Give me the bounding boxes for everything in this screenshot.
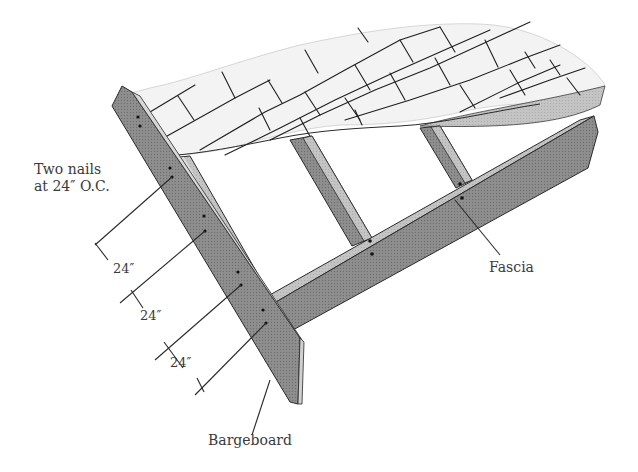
roof-framing-diagram: Two nails at 24″ O.C. 24″ 24″ 24″ Bargeb…	[0, 0, 638, 472]
nail	[368, 239, 372, 243]
nail	[202, 214, 205, 217]
nails-annotation: Two nails at 24″ O.C.	[34, 161, 110, 195]
shingles	[124, 22, 605, 156]
bargeboard-label: Bargeboard	[208, 432, 292, 449]
nails-annotation-line1: Two nails	[34, 161, 110, 178]
fascia-label: Fascia	[489, 259, 534, 276]
spacing-label-2: 24″	[140, 307, 161, 324]
nail	[138, 124, 141, 127]
spacing-label-1: 24″	[113, 260, 134, 277]
nail	[370, 252, 374, 256]
nails-annotation-line2: at 24″ O.C.	[34, 178, 110, 195]
nail	[460, 196, 464, 200]
nail	[458, 182, 462, 186]
nail	[261, 308, 264, 311]
nail	[236, 270, 239, 273]
nail	[168, 166, 171, 169]
nail	[136, 115, 139, 118]
spacing-label-3: 24″	[170, 354, 191, 371]
